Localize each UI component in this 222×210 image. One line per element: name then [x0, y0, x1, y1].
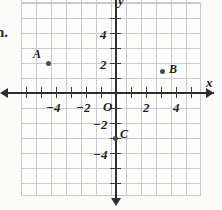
x-tick-minus2: [86, 87, 87, 98]
point-dot-a: [46, 61, 51, 66]
y-tick-minus2: [110, 123, 121, 124]
x-tick-label-2: 2: [143, 101, 150, 114]
coordinate-plane-figure: n. −4 −2 2 4 O 4 2 −2 −4 x y A B C: [0, 0, 222, 210]
y-tick-5: [110, 18, 121, 19]
y-tick-label-2: 2: [100, 58, 107, 71]
x-tick-1: [131, 87, 132, 98]
x-axis-line: [4, 92, 214, 94]
x-tick-label-minus4: −4: [46, 101, 60, 114]
x-tick-label-4: 4: [173, 101, 180, 114]
x-tick-3: [161, 87, 162, 98]
point-dot-c: [113, 136, 118, 141]
y-tick-minus5: [110, 168, 121, 169]
x-tick-2: [146, 87, 147, 98]
x-tick-5: [191, 87, 192, 98]
x-tick-4: [176, 87, 177, 98]
y-tick-label-minus4: −4: [93, 148, 107, 161]
x-tick-minus5: [41, 87, 42, 98]
y-tick-minus4: [110, 153, 121, 154]
point-label-a: A: [33, 48, 41, 60]
point-label-c: C: [120, 128, 128, 140]
y-tick-4: [110, 33, 121, 34]
y-tick-1: [110, 78, 121, 79]
y-tick-minus6: [110, 183, 121, 184]
x-tick-minus1: [101, 87, 102, 98]
x-tick-minus4: [56, 87, 57, 98]
grid-bottom-edge: [21, 195, 201, 196]
x-tick-minus3: [71, 87, 72, 98]
y-tick-label-minus2: −2: [93, 118, 107, 131]
y-tick-label-4: 4: [100, 28, 107, 41]
x-tick-minus6: [26, 87, 27, 98]
y-tick-2: [110, 63, 121, 64]
origin-label: O: [103, 100, 112, 113]
y-axis-label: y: [118, 0, 124, 7]
page-margin-text-fragment: n.: [0, 24, 8, 41]
x-axis-left-arrow-icon: [0, 88, 8, 98]
point-label-b: B: [169, 63, 177, 75]
x-tick-label-minus2: −2: [76, 101, 90, 114]
y-axis-down-arrow-icon: [111, 198, 121, 206]
point-dot-b: [160, 69, 165, 74]
x-axis-label: x: [206, 76, 213, 89]
grid-background: [21, 0, 201, 196]
y-tick-3: [110, 48, 121, 49]
y-axis-line: [115, 0, 117, 201]
grid-right-edge: [200, 3, 201, 196]
